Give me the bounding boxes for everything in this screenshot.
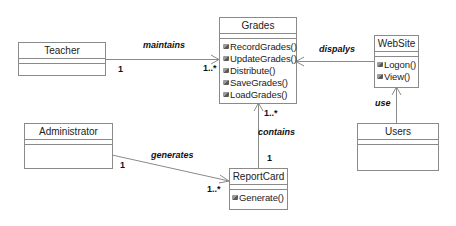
class-name: Grades xyxy=(220,18,296,34)
class-users[interactable]: Users xyxy=(357,123,439,171)
maintains-label: maintains xyxy=(143,40,185,50)
use-label: use xyxy=(375,98,391,108)
attributes-compartment xyxy=(358,140,438,145)
operation-icon xyxy=(223,68,229,73)
operation: RecordGrades() xyxy=(223,41,296,53)
operation-icon xyxy=(223,44,229,49)
operation: Logon() xyxy=(377,59,418,71)
class-name: Administrator xyxy=(25,124,112,140)
class-website[interactable]: WebSite Logon() View() xyxy=(374,35,419,88)
class-reportcard[interactable]: ReportCard Generate() xyxy=(229,168,288,210)
operation-icon xyxy=(223,80,229,85)
operation-icon xyxy=(377,74,383,79)
operations-compartment: RecordGrades() UpdateGrades() Distribute… xyxy=(220,39,296,101)
operations-compartment: Generate() xyxy=(230,190,287,204)
generates-to-multiplicity: 1..* xyxy=(207,184,221,194)
displays-label: dispalys xyxy=(319,44,355,54)
contains-label: contains xyxy=(258,127,295,137)
operation-icon xyxy=(223,56,229,61)
operations-compartment: Logon() View() xyxy=(375,57,418,83)
class-name: Teacher xyxy=(19,43,105,59)
operation-icon xyxy=(223,92,229,97)
operation-icon xyxy=(232,195,238,200)
contains-from-multiplicity: 1 xyxy=(267,153,272,163)
class-name: WebSite xyxy=(375,36,418,52)
class-name: Users xyxy=(358,124,438,140)
operation: LoadGrades() xyxy=(223,89,296,101)
generates-label: generates xyxy=(151,150,194,160)
class-administrator[interactable]: Administrator xyxy=(24,123,113,169)
generates-from-multiplicity: 1 xyxy=(120,160,125,170)
operation-icon xyxy=(377,62,383,67)
class-grades[interactable]: Grades RecordGrades() UpdateGrades() Dis… xyxy=(219,17,297,104)
attributes-compartment xyxy=(25,140,112,145)
operation: UpdateGrades() xyxy=(223,53,296,65)
operation: SaveGrades() xyxy=(223,77,296,89)
class-name: ReportCard xyxy=(230,169,287,185)
maintains-to-multiplicity: 1..* xyxy=(203,63,217,73)
operation: Distribute() xyxy=(223,65,296,77)
maintains-from-multiplicity: 1 xyxy=(118,64,123,74)
attributes-compartment xyxy=(19,59,105,64)
contains-to-multiplicity: 1..* xyxy=(264,108,278,118)
operation: Generate() xyxy=(232,192,287,204)
operation: View() xyxy=(377,71,418,83)
class-teacher[interactable]: Teacher xyxy=(18,42,106,76)
